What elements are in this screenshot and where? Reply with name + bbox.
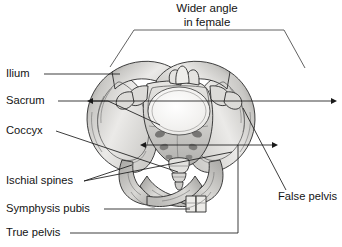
- label-ilium: Ilium: [6, 67, 30, 79]
- label-sacrum: Sacrum: [6, 94, 45, 106]
- label-false-pelvis: False pelvis: [278, 190, 337, 202]
- leader-false-pelvis: [243, 108, 286, 190]
- label-coccyx: Coccyx: [6, 124, 43, 136]
- label-true-pelvis: True pelvis: [6, 226, 61, 238]
- title-line1: Wider angle: [176, 2, 237, 14]
- figure-canvas: Wider angle in female Ilium Sacrum Coccy…: [0, 0, 342, 247]
- pelvis-illustration: [87, 61, 255, 212]
- symphysis-pubis: [186, 196, 206, 212]
- label-ischial-spines: Ischial spines: [6, 174, 74, 186]
- title-line2: in female: [184, 16, 231, 28]
- pelvic-inlet: [148, 87, 210, 135]
- label-symphysis-pubis: Symphysis pubis: [6, 202, 90, 214]
- pelvis-diagram: Wider angle in female Ilium Sacrum Coccy…: [0, 0, 342, 247]
